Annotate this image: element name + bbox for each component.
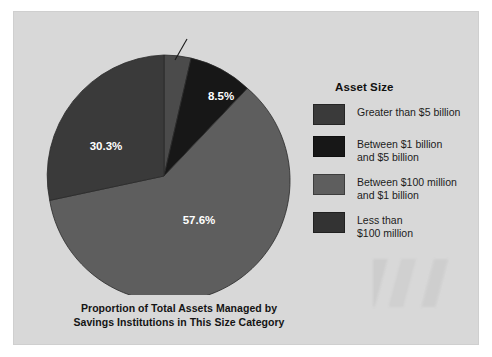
legend-label-between-100-million-and-1-billion: Between $100 million and $1 billion bbox=[357, 174, 457, 201]
slice-label-8-5: 8.5% bbox=[208, 90, 234, 102]
caption-line-1: Proportion of Total Assets Managed by bbox=[59, 302, 299, 316]
scan-artifact bbox=[373, 259, 465, 307]
slice-label-30-3: 30.3% bbox=[90, 140, 123, 152]
legend-swatch-between-100-million-and-1-billion bbox=[313, 174, 345, 195]
legend-label-between-1-and-5-billion: Between $1 billion and $5 billion bbox=[357, 136, 442, 163]
legend-swatch-greater-than-5-billion bbox=[313, 104, 345, 125]
pie-slice-30-3[interactable] bbox=[47, 55, 164, 200]
legend-item-greater-than-5-billion[interactable]: Greater than $5 billion bbox=[313, 104, 492, 125]
legend-title: Asset Size bbox=[335, 81, 492, 93]
legend-item-between-100-million-and-1-billion[interactable]: Between $100 million and $1 billion bbox=[313, 174, 492, 201]
pie-chart: 3.6% 8.5% 57.6% 30.3% bbox=[43, 37, 295, 295]
legend-label-greater-than-5-billion: Greater than $5 billion bbox=[357, 104, 460, 119]
chart-caption: Proportion of Total Assets Managed by Sa… bbox=[59, 302, 299, 329]
caption-line-2: Savings Institutions in This Size Catego… bbox=[59, 316, 299, 330]
legend-label-less-than-100-million: Less than $100 million bbox=[357, 212, 413, 239]
pie-chart-svg: 3.6% 8.5% 57.6% 30.3% bbox=[43, 37, 295, 295]
legend-item-between-1-and-5-billion[interactable]: Between $1 billion and $5 billion bbox=[313, 136, 492, 163]
legend: Asset Size Greater than $5 billion Betwe… bbox=[313, 81, 492, 250]
slice-label-57-6: 57.6% bbox=[183, 214, 216, 226]
chart-panel: 3.6% 8.5% 57.6% 30.3% Proportion of Tota… bbox=[13, 11, 479, 345]
legend-swatch-less-than-100-million bbox=[313, 212, 345, 233]
legend-item-less-than-100-million[interactable]: Less than $100 million bbox=[313, 212, 492, 239]
figure-container: 3.6% 8.5% 57.6% 30.3% Proportion of Tota… bbox=[0, 0, 492, 357]
legend-swatch-between-1-and-5-billion bbox=[313, 136, 345, 157]
